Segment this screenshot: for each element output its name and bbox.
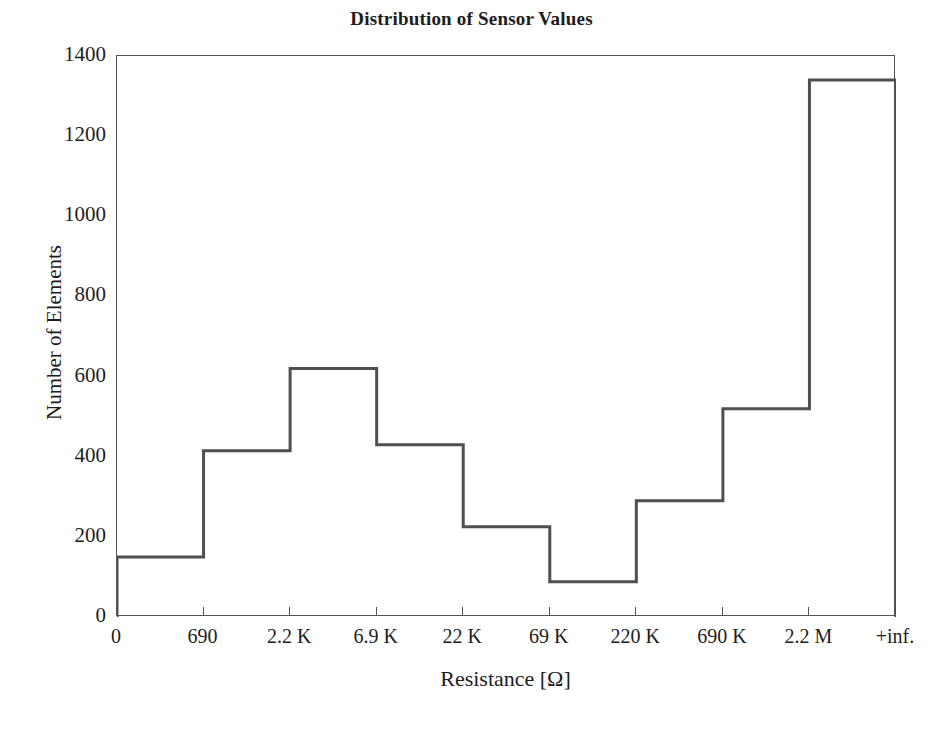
y-axis-tick-label: 600 bbox=[36, 365, 106, 386]
histogram-outline-path bbox=[117, 80, 896, 617]
x-axis-tick-mark bbox=[376, 607, 377, 616]
step-plot-series bbox=[117, 56, 896, 617]
y-axis-tick-label: 1400 bbox=[36, 44, 106, 65]
x-axis-tick-mark bbox=[808, 607, 809, 616]
page-title: Distribution of Sensor Values bbox=[0, 8, 943, 30]
y-axis-tick-label: 1000 bbox=[36, 204, 106, 225]
x-axis-tick-mark bbox=[203, 607, 204, 616]
y-axis-tick-label: 200 bbox=[36, 525, 106, 546]
x-axis-tick-mark bbox=[635, 607, 636, 616]
y-axis-tick-label: 1200 bbox=[36, 124, 106, 145]
x-axis-tick-mark bbox=[289, 607, 290, 616]
y-axis-tick-label: 800 bbox=[36, 284, 106, 305]
plot-area bbox=[116, 55, 895, 616]
x-axis-tick-mark bbox=[722, 607, 723, 616]
x-axis-title: Resistance [Ω] bbox=[116, 666, 895, 692]
x-axis-tick-label: +inf. bbox=[835, 624, 943, 648]
x-axis-tick-mark bbox=[462, 607, 463, 616]
y-axis-tick-label: 400 bbox=[36, 445, 106, 466]
figure-canvas: Distribution of Sensor Values Number of … bbox=[0, 0, 943, 740]
y-axis-tick-label: 0 bbox=[36, 605, 106, 626]
x-axis-tick-mark bbox=[549, 607, 550, 616]
